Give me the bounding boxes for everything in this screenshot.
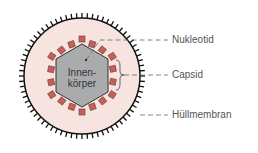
virus-diagram (0, 0, 258, 153)
label-capsid: Capsid (172, 69, 203, 80)
core-label-line1: Innen- (62, 67, 102, 78)
label-nukleotid: Nukleotid (172, 34, 214, 45)
core-label-line2: körper (62, 78, 102, 89)
label-huellmembran: Hüllmembran (172, 109, 231, 120)
core-label: Innen- körper (62, 67, 102, 89)
